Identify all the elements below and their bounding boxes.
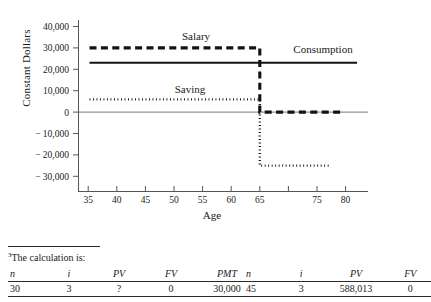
cell-i: 3 bbox=[46, 282, 92, 297]
column-header-pv: PV bbox=[92, 267, 146, 282]
y-tick-marks bbox=[73, 27, 79, 177]
table-header-row: n i PV FV PMT bbox=[8, 267, 258, 282]
table-header-row: n i PV FV bbox=[244, 267, 431, 282]
column-header-fv: FV bbox=[146, 267, 196, 282]
column-header-i: i bbox=[280, 267, 323, 282]
footnote-separator-rule bbox=[8, 246, 100, 247]
y-tick-label: 40,000 bbox=[43, 22, 69, 32]
x-tick-label: 35 bbox=[83, 195, 93, 205]
table-row: 45 3 588,013 0 bbox=[244, 282, 431, 297]
accumulation-table: n i PV FV PMT 30 3 ? 0 30,000 bbox=[8, 267, 258, 297]
y-tick-label: 30,000 bbox=[43, 43, 69, 53]
cell-fv: 0 bbox=[390, 282, 431, 297]
y-tick-label: 0 bbox=[64, 108, 69, 118]
x-tick-label: 40 bbox=[112, 195, 122, 205]
column-header-i: i bbox=[46, 267, 92, 282]
annuity-table: n i PV FV 45 3 588,013 0 bbox=[244, 267, 431, 297]
column-header-fv: FV bbox=[390, 267, 431, 282]
footnote-intro-label: The calculation is: bbox=[12, 252, 86, 263]
x-tick-marks bbox=[88, 186, 345, 192]
x-tick-label: 65 bbox=[255, 195, 265, 205]
y-tick-labels: 40,000 30,000 20,000 10,000 0 − 10,000 −… bbox=[35, 22, 69, 182]
column-header-n: n bbox=[244, 267, 280, 282]
cell-n: 30 bbox=[8, 282, 46, 297]
x-tick-labels: 35 40 45 50 55 60 65 75 80 bbox=[83, 195, 350, 205]
salary-line bbox=[90, 48, 342, 112]
saving-line bbox=[90, 99, 332, 165]
column-header-pv: PV bbox=[323, 267, 390, 282]
table-row: 30 3 ? 0 30,000 bbox=[8, 282, 258, 297]
consumption-series-label: Consumption bbox=[293, 43, 353, 55]
x-tick-label: 55 bbox=[198, 195, 208, 205]
salary-series-label: Salary bbox=[182, 30, 211, 42]
x-tick-label: 60 bbox=[226, 195, 236, 205]
cell-pv: ? bbox=[92, 282, 146, 297]
y-tick-label: − 20,000 bbox=[35, 150, 69, 160]
cell-pv: 588,013 bbox=[323, 282, 390, 297]
footnote-intro-text: 3The calculation is: bbox=[8, 252, 85, 263]
x-tick-label: 45 bbox=[141, 195, 151, 205]
cell-i: 3 bbox=[280, 282, 323, 297]
x-tick-label: 80 bbox=[341, 195, 351, 205]
chart-canvas: 40,000 30,000 20,000 10,000 0 − 10,000 −… bbox=[0, 0, 431, 232]
y-tick-label: − 10,000 bbox=[35, 129, 69, 139]
x-tick-label: 50 bbox=[169, 195, 179, 205]
x-tick-label: 75 bbox=[312, 195, 322, 205]
column-header-n: n bbox=[8, 267, 46, 282]
life-cycle-savings-figure: Constant Dollars 40,000 30,000 20,000 10… bbox=[0, 0, 431, 232]
x-axis-title: Age bbox=[203, 209, 221, 221]
y-tick-label: 20,000 bbox=[43, 65, 69, 75]
y-tick-label: − 30,000 bbox=[35, 172, 69, 182]
y-tick-label: 10,000 bbox=[43, 86, 69, 96]
cell-n: 45 bbox=[244, 282, 280, 297]
cell-fv: 0 bbox=[146, 282, 196, 297]
saving-series-label: Saving bbox=[175, 83, 206, 95]
footnote-block: 3The calculation is: n i PV FV PMT 30 3 … bbox=[0, 232, 431, 302]
